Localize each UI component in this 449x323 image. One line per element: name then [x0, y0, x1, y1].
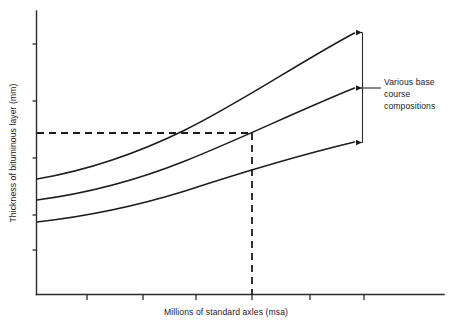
- annotation-line-2: course: [384, 89, 411, 99]
- design-curve-middle: [37, 88, 355, 200]
- chart-canvas: Thickness of bituminous layer (mm) Milli…: [0, 0, 449, 323]
- x-axis-title: Millions of standard axles (msa): [164, 307, 288, 317]
- construction-guide-lines: [37, 133, 252, 294]
- base-course-bracket-group: [356, 33, 381, 143]
- base-course-annotation-text: Various base course compositions: [384, 77, 435, 111]
- design-curve-lower: [37, 142, 355, 222]
- annotation-line-3: compositions: [384, 101, 435, 111]
- figure-root: Thickness of bituminous layer (mm) Milli…: [0, 0, 449, 323]
- x-axis-ticks: [87, 295, 364, 301]
- design-curves-group: [37, 33, 355, 222]
- y-axis-title: Thickness of bituminous layer (mm): [8, 83, 18, 222]
- annotation-line-1: Various base: [384, 77, 435, 87]
- axes-group: [37, 11, 445, 295]
